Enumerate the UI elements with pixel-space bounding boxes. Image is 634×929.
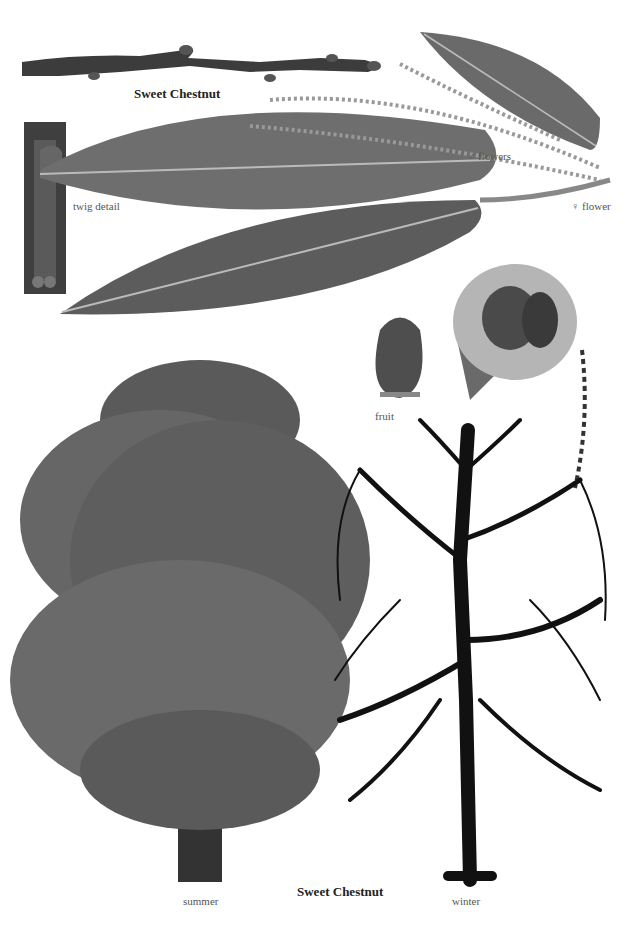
twig-detail-label: twig detail bbox=[73, 200, 120, 212]
botanical-plate: Sweet Chestnut twig detail ♂ flowers ♀ f… bbox=[0, 0, 634, 929]
twig-illustration bbox=[22, 45, 381, 82]
winter-tree-illustration bbox=[335, 420, 606, 880]
illustration bbox=[0, 0, 634, 929]
male-flowers-label: ♂ flowers bbox=[467, 150, 511, 162]
fruit-label: fruit bbox=[375, 410, 394, 422]
fruit-illustration bbox=[376, 318, 423, 399]
summer-label: summer bbox=[183, 895, 218, 907]
winter-label: winter bbox=[452, 895, 480, 907]
summer-tree-illustration bbox=[10, 360, 370, 882]
bottom-title: Sweet Chestnut bbox=[297, 884, 383, 900]
female-flower-label: ♀ flower bbox=[571, 200, 611, 212]
twig-detail-illustration bbox=[24, 122, 66, 294]
top-title: Sweet Chestnut bbox=[134, 86, 220, 102]
